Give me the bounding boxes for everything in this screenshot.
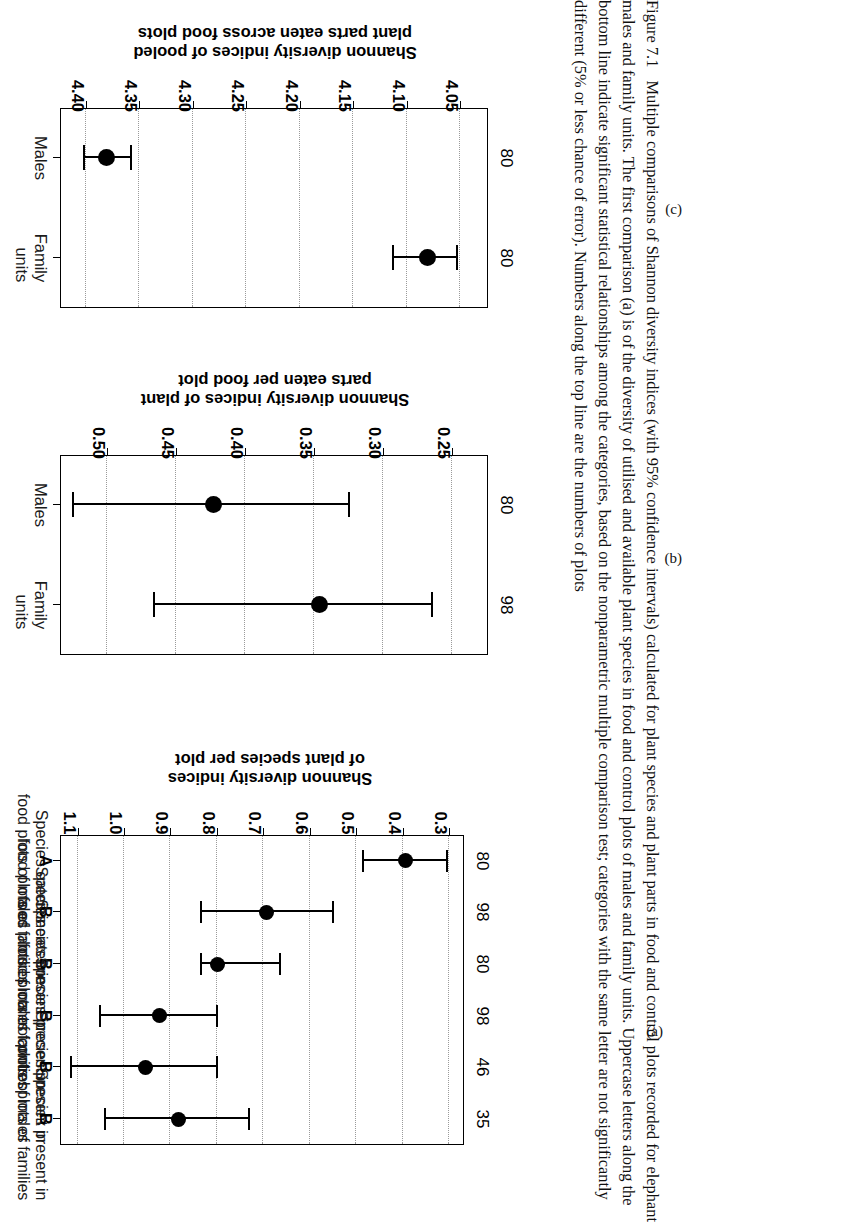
axis-tick-label: 0.4 (385, 812, 404, 835)
plot-area-c (60, 108, 488, 308)
error-bar-cap (362, 850, 364, 872)
gridline (309, 836, 310, 1144)
gridline (106, 456, 107, 654)
error-bar-cap (200, 953, 202, 975)
axis-tick-label: 4.10 (389, 80, 408, 112)
axis-tick-label: 4.30 (175, 80, 194, 112)
axis-tick-label: 0.5 (338, 812, 357, 835)
gridline (123, 836, 124, 1144)
axis-tick-label: 0.9 (152, 812, 171, 835)
gridline (406, 109, 407, 307)
axis-tick-label: 0.25 (434, 427, 453, 459)
category-label: Males (31, 483, 50, 527)
axis-title-a: Shannon diversity indices of plant speci… (20, 749, 520, 788)
category-label: Males (31, 136, 50, 180)
gridline (244, 456, 245, 654)
error-bar-cap (332, 902, 334, 924)
error-bar-cap (431, 593, 433, 618)
error-bar-cap (446, 850, 448, 872)
plot-area-a (60, 835, 464, 1145)
gridline (299, 109, 300, 307)
gridline (216, 836, 217, 1144)
axis-tick-label: 0.45 (158, 427, 177, 459)
category-tick (53, 257, 60, 258)
category-tick (53, 604, 60, 605)
category-label: Familyunits (12, 234, 50, 283)
caption-figure-number: Figure 7.1 (643, 0, 662, 67)
gridline (352, 109, 353, 307)
category-label-line2: control plots of families (14, 1038, 32, 1201)
category-label-line1: Family (31, 581, 50, 630)
data-point (210, 957, 225, 972)
axis-tick-label: 0.30 (365, 427, 384, 459)
error-bar-cap (104, 1108, 106, 1130)
plot-area-b (60, 455, 488, 655)
axis-tick-label: 4.15 (335, 80, 354, 112)
error-bar-cap (70, 1057, 72, 1079)
category-label-line2: units (12, 234, 31, 283)
data-point (98, 150, 115, 167)
error-bar-cap (72, 493, 74, 518)
axis-tick-label: 0.40 (227, 427, 246, 459)
category-tick (53, 157, 60, 158)
error-bar-cap (216, 1005, 218, 1027)
gridline (175, 456, 176, 654)
gridline (262, 836, 263, 1144)
gridline (382, 456, 383, 654)
gridline (169, 836, 170, 1144)
error-bar-cap (83, 146, 85, 171)
error-bar-cap (248, 1108, 250, 1130)
axis-tick-label: 0.7 (245, 812, 264, 835)
figure-caption-block: Figure 7.1Multiple comparisons of Shanno… (461, 0, 664, 1220)
significance-letter: B (36, 1113, 55, 1125)
error-bar-cap (279, 953, 281, 975)
category-label-line1: Males (31, 136, 50, 180)
error-bar-cap (216, 1057, 218, 1079)
category-label-line1: Family (31, 234, 50, 283)
data-point (419, 250, 436, 267)
gridline (192, 109, 193, 307)
gridline (85, 109, 86, 307)
gridline (402, 836, 403, 1144)
gridline (245, 109, 246, 307)
error-bar-line (155, 603, 433, 605)
error-bar-cap (456, 246, 458, 271)
error-bar-cap (130, 146, 132, 171)
category-tick (53, 504, 60, 505)
error-bar-cap (153, 593, 155, 618)
error-bar-cap (99, 1005, 101, 1027)
error-bar-cap (200, 902, 202, 924)
axis-tick-label: 4.25 (228, 80, 247, 112)
axis-tick-label: 4.35 (121, 80, 140, 112)
error-bar-cap (392, 246, 394, 271)
axis-tick-label: 4.05 (442, 80, 461, 112)
axis-tick-label: 1.0 (106, 812, 125, 835)
gridline (313, 456, 314, 654)
axis-title-a-line1: Shannon diversity indices (20, 769, 520, 788)
caption-body: Multiple comparisons of Shannon diversit… (571, 0, 662, 1222)
axis-tick-label: 1.1 (60, 812, 79, 835)
error-bar-cap (348, 493, 350, 518)
axis-tick-label: 0.8 (199, 812, 218, 835)
panel-letter-c: (c) (665, 201, 682, 218)
gridline (448, 836, 449, 1144)
axis-title-a-line2: of plant species per plot (20, 749, 520, 768)
gridline (138, 109, 139, 307)
panel-letter-b: (b) (665, 550, 683, 567)
axis-tick-label: 0.6 (292, 812, 311, 835)
gridline (77, 836, 78, 1144)
axis-tick-label: 0.35 (296, 427, 315, 459)
category-label-line2: units (12, 581, 31, 630)
axis-tick-label: 4.40 (68, 80, 87, 112)
data-point (171, 1112, 186, 1127)
figure-caption-text: Figure 7.1Multiple comparisons of Shanno… (568, 0, 664, 1226)
axis-tick-label: 4.20 (282, 80, 301, 112)
axis-tick-label: 0.3 (431, 812, 450, 835)
axis-tick-label: 0.50 (89, 427, 108, 459)
gridline (355, 836, 356, 1144)
gridline (451, 456, 452, 654)
category-label-line1: Males (31, 483, 50, 527)
category-label: Familyunits (12, 581, 50, 630)
